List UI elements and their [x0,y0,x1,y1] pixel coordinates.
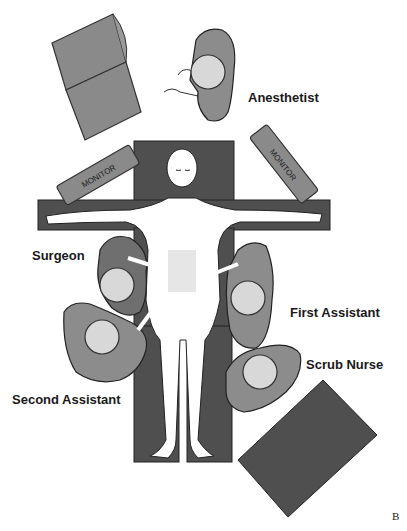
scrub-nurse-figure [226,345,301,412]
label-surgeon: Surgeon [32,248,85,263]
label-scrub-nurse: Scrub Nurse [306,357,383,372]
label-first-assistant: First Assistant [290,305,380,320]
monitor-left: MONITOR [56,144,140,205]
or-layout-diagram: MONITOR MONITOR [0,0,407,531]
panel-letter: B [392,510,399,522]
anesthetist-figure [164,29,235,121]
label-second-assistant: Second Assistant [12,392,121,407]
label-anesthetist: Anesthetist [248,90,319,105]
monitor-right: MONITOR [249,124,318,204]
anesthesia-machine [52,14,141,140]
